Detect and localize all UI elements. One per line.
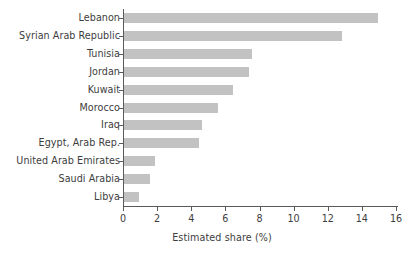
y-axis-tick-label: United Arab Emirates (16, 156, 120, 166)
x-axis-title-text: Estimated share (%) (172, 232, 272, 243)
x-axis-tick (396, 207, 397, 211)
y-axis-tick (119, 197, 123, 198)
bar (124, 192, 139, 202)
x-axis-tick (225, 207, 226, 211)
y-axis-tick-label: Syrian Arab Republic (19, 31, 120, 41)
y-axis-tick (119, 161, 123, 162)
y-axis-tick-label: Morocco (79, 103, 120, 113)
y-axis-tick (119, 108, 123, 109)
bar (124, 13, 378, 23)
bar-chart: LebanonSyrian Arab RepublicTunisiaJordan… (0, 0, 416, 258)
bar (124, 174, 150, 184)
x-axis-tick (362, 207, 363, 211)
bar (124, 120, 202, 130)
y-axis-tick-label: Iraq (101, 120, 120, 130)
y-axis-tick (119, 36, 123, 37)
bar (124, 138, 199, 148)
x-axis-title: Estimated share (%) (0, 232, 416, 243)
y-axis-tick-label: Lebanon (79, 13, 120, 23)
y-axis-tick (119, 179, 123, 180)
bar (124, 67, 249, 77)
bar (124, 49, 252, 59)
x-axis-tick (157, 207, 158, 211)
bar (124, 31, 342, 41)
bar (124, 85, 233, 95)
x-axis-tick (294, 207, 295, 211)
x-axis-tick (328, 207, 329, 211)
plot-area (124, 9, 397, 205)
y-axis-tick-label: Libya (94, 192, 120, 202)
y-axis-tick (119, 54, 123, 55)
x-axis-tick (123, 207, 124, 211)
x-axis-tick (260, 207, 261, 211)
y-axis-tick-label: Jordan (89, 67, 120, 77)
x-axis-tick-label: 16 (376, 213, 416, 224)
x-axis-line (123, 206, 398, 207)
y-axis-tick-label: Kuwait (88, 85, 120, 95)
y-axis-labels: LebanonSyrian Arab RepublicTunisiaJordan… (0, 9, 120, 205)
bar (124, 103, 218, 113)
bar (124, 156, 155, 166)
y-axis-tick (119, 72, 123, 73)
y-axis-tick (119, 90, 123, 91)
x-axis-tick (191, 207, 192, 211)
y-axis-tick-label: Egypt, Arab Rep. (39, 138, 120, 148)
y-axis-tick-label: Tunisia (87, 49, 120, 59)
y-axis-tick (119, 143, 123, 144)
y-axis-tick-label: Saudi Arabia (59, 174, 120, 184)
y-axis-tick (119, 125, 123, 126)
y-axis-tick (119, 18, 123, 19)
